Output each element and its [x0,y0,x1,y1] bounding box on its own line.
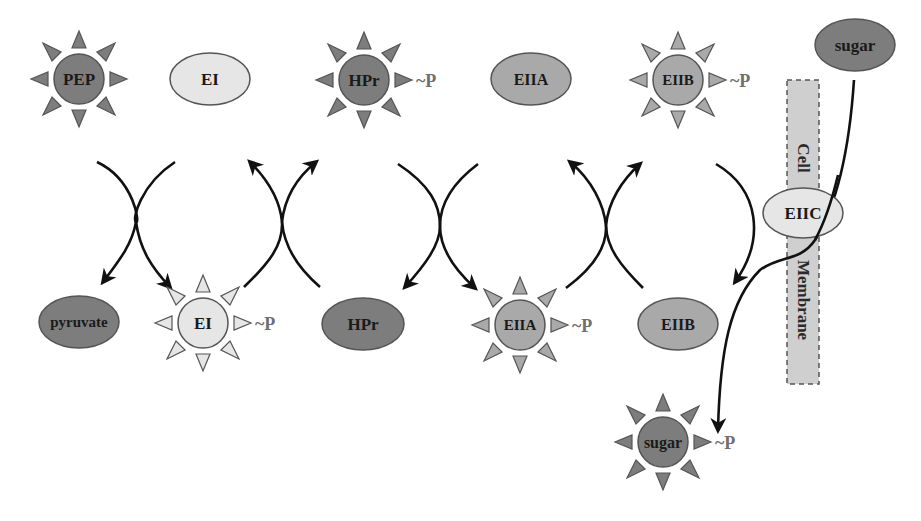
node-eiia-bottom: EIIA ~P [472,277,592,373]
svg-text:EI: EI [194,314,212,333]
svg-text:HPr: HPr [348,71,380,90]
transfer-arrows [97,80,854,430]
arrow-sugar-transport [718,80,854,430]
svg-text:EIIA: EIIA [504,317,537,333]
svg-text:pyruvate: pyruvate [50,314,108,330]
node-sugar-outside: sugar [815,19,895,71]
node-hpr-top: HPr ~P [316,32,436,128]
phospho-label: ~P [730,71,750,91]
arrow-eiib-p-to-eiib [716,164,754,282]
arrow-pep-to-pyruvate [97,162,137,282]
node-ei-top: EI [170,53,250,105]
arrow-eiia-to-eiia-p [440,164,478,288]
phospho-label: ~P [715,433,735,453]
phospho-label: ~P [255,314,275,334]
node-eiib-top: EIIB ~P [630,32,750,128]
node-hpr-bottom: HPr [322,298,404,350]
svg-text:HPr: HPr [347,315,379,334]
arrow-hpr-to-hpr-p [244,162,316,287]
arrow-ei-to-ei-p [135,162,175,287]
membrane-label-cell: Cell [794,143,813,173]
svg-text:EIIB: EIIB [661,316,695,333]
arrow-eiib-to-eiib-p [566,164,640,288]
svg-text:EIIB: EIIB [662,72,694,88]
svg-text:EI: EI [201,70,219,89]
pts-diagram: Cell Membrane PEP EI [0,0,921,521]
arrow-hpr-p-to-hpr [398,164,440,287]
phospho-label: ~P [572,316,592,336]
svg-text:EIIC: EIIC [785,204,822,223]
svg-text:sugar: sugar [835,36,876,55]
node-pyruvate: pyruvate [39,296,119,348]
svg-text:EIIA: EIIA [514,71,549,88]
membrane-label-membrane: Membrane [794,260,813,341]
node-ei-bottom: EI ~P [155,275,275,371]
node-eiic: EIIC [763,188,843,238]
phospho-label: ~P [416,71,436,91]
node-sugar-inside: sugar ~P [615,394,735,490]
node-eiia-top: EIIA [491,53,571,105]
node-pep: PEP [31,31,127,127]
svg-text:sugar: sugar [644,434,682,452]
node-eiib-bottom: EIIB [638,298,718,350]
svg-text:PEP: PEP [63,70,95,89]
